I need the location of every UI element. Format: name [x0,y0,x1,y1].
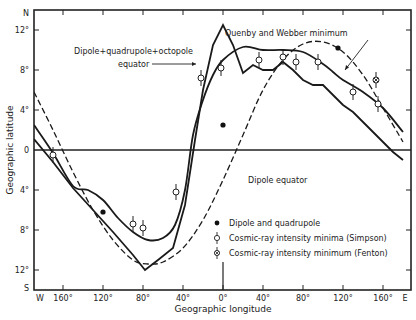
simpson-point [50,152,56,158]
annotation-label: Dipole equator [248,176,308,185]
simpson-point [140,225,146,231]
dipole-quadrupole-point [220,122,225,127]
annotation-label: Dipole+quadrupole+octopole [74,47,193,56]
x-axis-label: Geographic longitude [174,304,272,314]
simpson-point [315,59,321,65]
y-tick-label: 12° [15,266,29,275]
simpson-point [293,59,299,65]
legend-open-circle-icon [214,235,219,240]
x-tick-label: 120° [93,294,112,303]
legend: Dipole and quadrupoleCosmic-ray intensit… [214,219,387,259]
legend-entry: Dipole and quadrupole [229,219,320,228]
x-tick-label: 160° [373,294,392,303]
chart: W160°120°80°40°0°40°80°120°160°E N12°8°4… [0,0,416,320]
simpson-point [173,189,179,195]
y-tick-label: 4° [20,186,29,195]
legend-entry: Cosmic-ray intensity minimum (Fenton) [229,249,388,258]
y-tick-label: S [24,284,29,293]
data-points [50,45,381,236]
x-tick-label: 160° [53,294,72,303]
x-tick-label: 80° [136,294,150,303]
x-tick-label: 40° [176,294,190,303]
y-tick-label: 4° [20,106,29,115]
simpson-point [130,221,136,227]
simpson-point [218,65,224,71]
simpson-point [198,75,204,81]
series-line [34,47,403,241]
x-tick-label: 40° [256,294,270,303]
legend-entry: Cosmic-ray intensity minima (Simpson) [229,234,387,243]
simpson-point [350,89,356,95]
y-tick-label: 0 [24,146,29,155]
dipole-quadrupole-point [335,45,340,50]
annotations: Quenby and Webber minimumDipole+quadrupo… [74,29,368,185]
series-line [34,41,403,264]
simpson-point [256,57,262,63]
legend-filled-circle-icon [215,221,220,226]
x-tick-label: W [36,294,44,303]
simpson-point [280,54,286,60]
y-tick-label: 12° [15,26,29,35]
x-tick-label: E [402,294,407,303]
y-tick-label: 8° [20,226,29,235]
annotation-label: equator [118,60,150,69]
simpson-point [375,101,381,107]
y-tick-label: N [23,9,29,18]
x-tick-label: 120° [333,294,352,303]
y-tick-label: 8° [20,66,29,75]
y-axis-label: Geographic latitude [5,105,15,195]
annotation-label: Quenby and Webber minimum [225,29,348,38]
dipole-quadrupole-point [100,209,105,214]
x-tick-label: 0° [218,294,227,303]
x-tick-label: 80° [296,294,310,303]
